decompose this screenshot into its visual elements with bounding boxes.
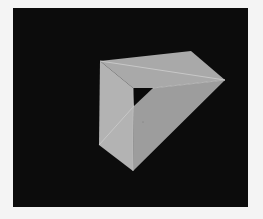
prism-render: [0, 0, 263, 219]
speck: [142, 121, 143, 122]
